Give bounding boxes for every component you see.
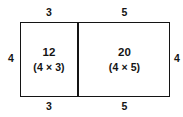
right-cell: 20 (4 × 5) [79, 22, 170, 97]
left-cell-product: 12 [42, 45, 55, 60]
area-model-diagram: 3 5 12 (4 × 3) 20 (4 × 5) 4 4 3 5 [0, 0, 183, 117]
bottom-right-dimension-label: 5 [79, 100, 170, 112]
top-left-dimension-label: 3 [21, 6, 77, 18]
top-right-dimension-label: 5 [79, 6, 170, 18]
left-side-dimension-label: 4 [5, 52, 17, 64]
left-cell: 12 (4 × 3) [21, 22, 77, 97]
right-cell-product: 20 [118, 45, 131, 60]
bottom-left-dimension-label: 3 [21, 100, 77, 112]
left-cell-expression: (4 × 3) [33, 61, 64, 74]
right-side-dimension-label: 4 [171, 52, 183, 64]
right-cell-expression: (4 × 5) [109, 61, 140, 74]
